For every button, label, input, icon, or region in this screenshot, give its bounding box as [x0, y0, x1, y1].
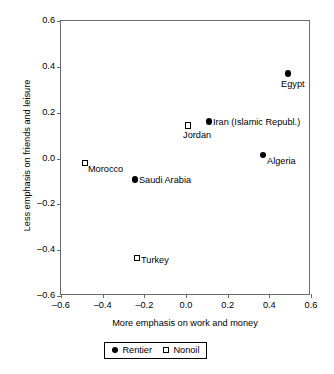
y-axis-tick-label: 0.6 — [21, 15, 55, 25]
y-axis-tick-label: 0.0 — [21, 153, 55, 163]
data-point-label: Morocco — [88, 164, 123, 174]
scatter-chart-figure: Less emphasis on friends and leisure 0.6… — [0, 0, 334, 374]
x-axis-tick-mark — [61, 294, 62, 298]
x-axis-tick-mark — [269, 294, 270, 298]
y-axis-tick-mark — [57, 250, 61, 251]
legend-item-label: Nonoil — [173, 345, 199, 355]
x-axis-tick-label: 0.0 — [169, 300, 203, 310]
data-point-label: Jordan — [183, 130, 211, 140]
y-axis-tick-label: –0.6 — [21, 290, 55, 300]
x-axis-tick-mark — [228, 294, 229, 298]
y-axis-tick-label: 0.4 — [21, 61, 55, 71]
x-axis-tick-mark — [311, 294, 312, 298]
chart-legend: RentierNonoil — [104, 342, 207, 359]
y-axis-tick-label: –0.4 — [21, 244, 55, 254]
legend-item-nonoil[interactable]: Nonoil — [163, 345, 199, 355]
data-point-label: Turkey — [141, 255, 169, 265]
x-axis-tick-mark — [186, 294, 187, 298]
data-point-label: Iran (Islamic Republ.) — [213, 117, 300, 127]
y-axis-tick-mark — [57, 204, 61, 205]
x-axis-tick-label: 0.6 — [294, 300, 328, 310]
filled-circle-marker-icon — [260, 152, 267, 159]
data-point-label: Egypt — [281, 79, 305, 89]
y-axis-tick-mark — [57, 113, 61, 114]
y-axis-tick-label: –0.2 — [21, 198, 55, 208]
open-square-marker-icon — [134, 255, 141, 262]
open-square-marker-icon — [163, 347, 169, 353]
x-axis-tick-label: –0.6 — [44, 300, 78, 310]
plot-area: 0.60.40.20.0–0.2–0.4–0.6–0.6–0.4–0.20.00… — [60, 20, 310, 295]
legend-item-rentier[interactable]: Rentier — [112, 345, 152, 355]
filled-circle-marker-icon — [206, 118, 213, 125]
filled-circle-marker-icon — [285, 70, 292, 77]
x-axis-tick-label: 0.2 — [211, 300, 245, 310]
y-axis-tick-label: 0.2 — [21, 107, 55, 117]
x-axis-tick-label: –0.4 — [86, 300, 120, 310]
y-axis-tick-mark — [57, 159, 61, 160]
x-axis-tick-mark — [103, 294, 104, 298]
legend-item-label: Rentier — [122, 345, 152, 355]
data-point-label: Saudi Arabia — [139, 175, 191, 185]
x-axis-tick-label: 0.4 — [252, 300, 286, 310]
filled-circle-marker-icon — [132, 176, 139, 183]
data-point-label: Algeria — [267, 156, 296, 166]
y-axis-tick-mark — [57, 21, 61, 22]
x-axis-tick-label: –0.2 — [127, 300, 161, 310]
filled-circle-marker-icon — [112, 347, 118, 353]
x-axis-tick-mark — [144, 294, 145, 298]
x-axis-title: More emphasis on work and money — [60, 318, 310, 328]
y-axis-tick-mark — [57, 67, 61, 68]
open-square-marker-icon — [185, 122, 192, 129]
